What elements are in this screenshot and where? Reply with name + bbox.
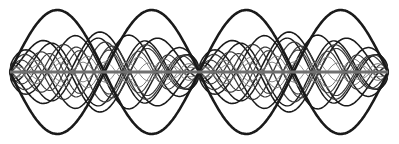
wave-plot [0, 0, 399, 144]
mode-curve [10, 32, 199, 106]
standing-wave-diagram [0, 0, 399, 144]
mode-curve [199, 38, 388, 112]
mode-curve [199, 32, 388, 106]
mode-curve [10, 38, 199, 112]
